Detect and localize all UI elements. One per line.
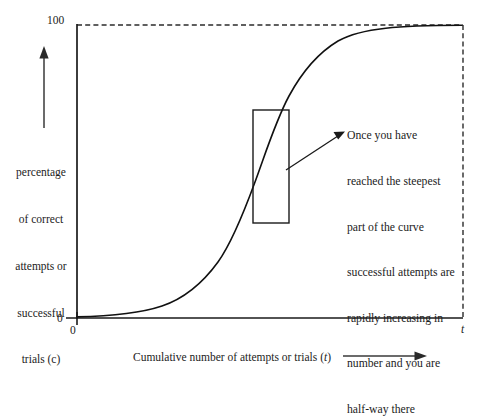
annotation-line-5: rapidly increasing in xyxy=(347,311,479,326)
x-axis-label-close: ) xyxy=(327,351,331,363)
y-axis-label-line-3: attempts or xyxy=(8,259,74,275)
y-axis-label-line-5: trials (c) xyxy=(8,352,74,368)
annotation-line-7: half-way there xyxy=(347,402,479,417)
y-axis-direction-arrow xyxy=(39,46,48,128)
annotation-line-2: reached the steepest xyxy=(347,174,479,189)
annotation-line-1: Once you have xyxy=(347,128,479,143)
steepest-part-annotation: Once you have reached the steepest part … xyxy=(347,98,479,420)
x-axis-label: Cumulative number of attempts or trials … xyxy=(133,350,331,364)
x-axis-label-text: Cumulative number of attempts or trials … xyxy=(133,351,324,363)
annotation-line-6: number and you are xyxy=(347,356,479,371)
callout-arrow xyxy=(286,132,345,171)
y-axis-tick-100: 100 xyxy=(47,13,64,27)
y-axis-label-line-2: of correct xyxy=(8,212,74,228)
annotation-line-3: part of the curve xyxy=(347,220,479,235)
annotation-line-4: successful attempts are xyxy=(347,265,479,280)
y-axis-label-line-1: percentage xyxy=(8,165,74,181)
y-axis-label: percentage of correct attempts or succes… xyxy=(8,134,74,399)
y-axis-label-line-4: successful xyxy=(8,306,74,322)
steepest-region-box xyxy=(253,110,289,223)
